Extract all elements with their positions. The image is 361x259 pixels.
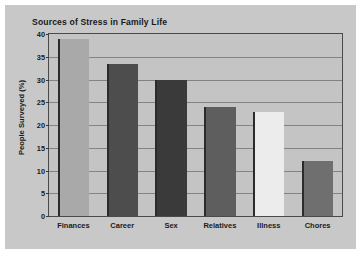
bar-group: Relatives [196, 34, 245, 216]
chart-figure: Sources of Stress in Family Life People … [5, 5, 356, 249]
bar [58, 39, 89, 216]
y-tick-label: 25 [37, 98, 45, 107]
bar [204, 107, 235, 216]
y-tick-label: 10 [37, 166, 45, 175]
chart-title: Sources of Stress in Family Life [32, 17, 167, 27]
y-tick-label: 30 [37, 75, 45, 84]
y-tick-label: 40 [37, 30, 45, 39]
y-tick-label: 35 [37, 52, 45, 61]
x-tick-label: Sex [147, 221, 196, 230]
bar-group: Career [98, 34, 147, 216]
y-tick-label: 20 [37, 121, 45, 130]
bar-group: Chores [293, 34, 342, 216]
y-axis-label: People Surveyed (%) [17, 63, 26, 173]
x-tick-label: Career [98, 221, 147, 230]
bar [253, 112, 284, 216]
x-tick-label: Chores [293, 221, 342, 230]
bar-group: Sex [147, 34, 196, 216]
bar-group: Illness [244, 34, 293, 216]
y-tick-mark [46, 216, 49, 217]
bar [155, 80, 186, 217]
x-tick-label: Illness [244, 221, 293, 230]
bar-group: Finances [49, 34, 98, 216]
x-tick-label: Relatives [196, 221, 245, 230]
x-tick-label: Finances [49, 221, 98, 230]
plot-area: 0510152025303540 FinancesCareerSexRelati… [48, 33, 343, 217]
y-tick-label: 15 [37, 143, 45, 152]
bar [302, 161, 333, 216]
bar [107, 64, 138, 216]
y-tick-label: 5 [41, 189, 45, 198]
y-tick-label: 0 [41, 212, 45, 221]
